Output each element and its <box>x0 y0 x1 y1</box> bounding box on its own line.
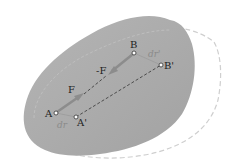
point-B <box>132 51 136 55</box>
label-B-prime: B' <box>164 60 174 71</box>
label-dr-A: dr <box>57 120 68 130</box>
label-F: F <box>68 84 75 95</box>
point-B-prime <box>159 63 163 67</box>
rigid-body-diagram: A A' B B' F -F dr dr' <box>0 0 234 168</box>
label-dr-B: dr' <box>148 49 161 59</box>
label-A: A <box>44 108 53 119</box>
label-B: B <box>130 39 137 50</box>
label-minus-F: -F <box>96 65 106 76</box>
point-A <box>54 111 58 115</box>
rigid-body-shape <box>24 16 195 156</box>
label-A-prime: A' <box>76 117 87 128</box>
